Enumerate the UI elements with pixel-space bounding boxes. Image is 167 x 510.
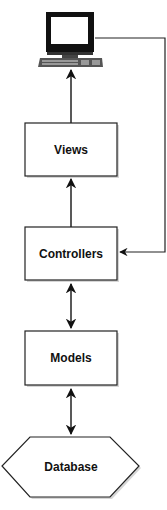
- node-models: Models: [25, 331, 119, 387]
- node-controllers: Controllers: [25, 227, 119, 282]
- models-label: Models: [50, 351, 92, 365]
- controllers-label: Controllers: [39, 247, 103, 261]
- node-views: Views: [25, 123, 119, 178]
- mvc-diagram: Views Controllers Models Database: [0, 0, 167, 510]
- database-label: Database: [44, 460, 98, 474]
- node-database: Database: [2, 437, 141, 499]
- computer-icon: [38, 12, 103, 67]
- views-label: Views: [54, 143, 88, 157]
